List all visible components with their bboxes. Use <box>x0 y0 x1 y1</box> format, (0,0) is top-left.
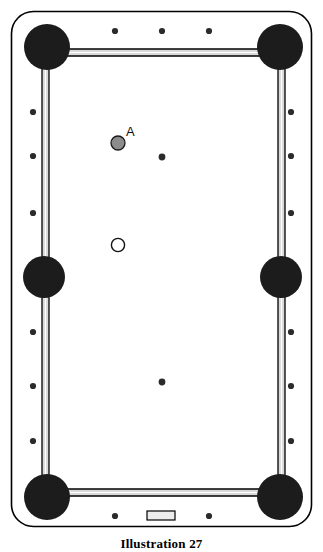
pocket-bottom-left <box>24 474 70 520</box>
diamond-left-5 <box>30 383 36 389</box>
rail-bottom <box>59 489 268 496</box>
billiard-table-figure: A Illustration 27 <box>0 0 323 552</box>
name-plate <box>147 511 175 520</box>
diamond-top-3 <box>206 28 212 34</box>
diamond-left-6 <box>30 438 36 444</box>
rail-right-upper <box>278 59 285 265</box>
ball-a-label: A <box>126 124 135 139</box>
diamond-right-3 <box>288 210 294 216</box>
cue-ball <box>111 238 124 251</box>
rail-left-lower <box>42 289 49 485</box>
diamond-right-1 <box>288 109 294 115</box>
diamond-right-6 <box>288 438 294 444</box>
diamond-top-2 <box>159 28 165 34</box>
spot-lower-center <box>159 379 166 386</box>
diamond-right-4 <box>288 329 294 335</box>
rail-left-upper <box>42 59 49 265</box>
diamond-left-3 <box>30 210 36 216</box>
diamond-bottom-1 <box>112 513 118 519</box>
diamond-left-4 <box>30 329 36 335</box>
ball-a <box>111 136 125 150</box>
rail-right-lower <box>278 289 285 485</box>
rail-top <box>59 49 268 56</box>
pocket-top-right <box>257 24 303 70</box>
diamond-right-2 <box>288 153 294 159</box>
diamond-left-2 <box>30 153 36 159</box>
billiard-table-diagram: A <box>0 0 323 552</box>
pocket-top-left <box>24 24 70 70</box>
diamond-bottom-2 <box>206 513 212 519</box>
pocket-side-left <box>23 256 65 298</box>
diamond-left-1 <box>30 109 36 115</box>
spot-upper-center <box>159 154 166 161</box>
diamond-top-1 <box>112 28 118 34</box>
pocket-bottom-right <box>257 474 303 520</box>
pocket-side-right <box>260 256 302 298</box>
playing-surface <box>47 47 280 497</box>
diamond-right-5 <box>288 383 294 389</box>
figure-caption: Illustration 27 <box>0 536 323 551</box>
